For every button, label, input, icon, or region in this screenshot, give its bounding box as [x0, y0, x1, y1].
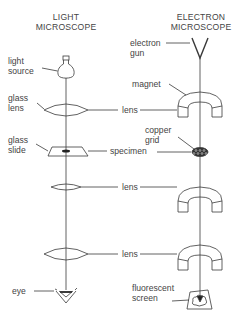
glass-slide-leader — [36, 144, 48, 151]
label-eye: eye — [12, 286, 26, 296]
beam-arrow-icon — [197, 296, 203, 302]
label-specimen: specimen — [110, 146, 147, 156]
electron-gun-icon — [192, 38, 208, 58]
label-lens-1: lens — [122, 105, 138, 115]
label-light-source: light source — [8, 56, 34, 76]
fluorescent-screen-leader — [172, 300, 189, 301]
magnet-leader — [169, 84, 186, 95]
label-glass-slide: glass slide — [8, 135, 28, 155]
eye-icon — [55, 288, 77, 303]
label-copper-grid: copper grid — [145, 125, 171, 145]
microscope-comparison-diagram — [0, 0, 239, 320]
label-glass-lens: glass lens — [8, 93, 28, 113]
label-fluorescent-screen: fluorescent screen — [132, 283, 174, 303]
light-source-leader — [42, 68, 58, 71]
label-lens-3: lens — [122, 249, 138, 259]
glass-lens-leader — [37, 103, 44, 109]
copper-grid-icon — [192, 148, 208, 157]
slide-specimen-dot — [62, 150, 70, 153]
label-lens-2: lens — [122, 182, 138, 192]
label-electron-gun: electron gun — [130, 38, 161, 58]
label-magnet: magnet — [132, 79, 161, 89]
light-bulb-icon — [58, 56, 74, 78]
copper-grid-leader — [178, 137, 194, 149]
